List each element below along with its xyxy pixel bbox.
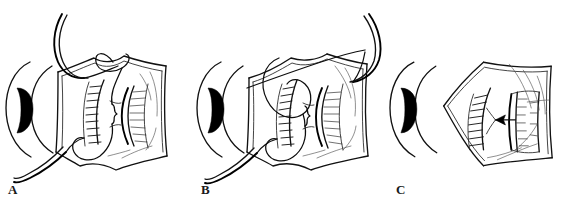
tissue-flap-c xyxy=(444,62,552,165)
panel-label-b: B xyxy=(201,183,210,196)
panel-a-illustration xyxy=(0,0,195,215)
globe-inner-arc xyxy=(415,66,437,153)
panel-c-illustration xyxy=(388,0,583,215)
globe-inner-arc xyxy=(222,66,244,153)
panel-b-illustration xyxy=(193,0,388,215)
flap-fill xyxy=(444,62,552,165)
pupil-crescent xyxy=(17,88,33,133)
eye-globe-group-b xyxy=(197,62,244,157)
suture-tail-lower-a[interactable] xyxy=(14,147,66,182)
panel-b: B xyxy=(193,0,388,215)
globe-inner-arc xyxy=(31,66,53,153)
figure-root: A xyxy=(0,0,584,215)
panel-c: C xyxy=(388,0,583,215)
eye-globe-group-a xyxy=(6,62,53,157)
panel-label-a: A xyxy=(8,183,18,196)
panel-label-c: C xyxy=(396,183,406,196)
panel-a: A xyxy=(0,0,195,215)
eye-globe-group-c xyxy=(390,62,437,157)
suture-tail-lower-b[interactable] xyxy=(205,148,257,183)
pupil-crescent xyxy=(401,88,417,133)
pupil-crescent xyxy=(208,88,224,133)
